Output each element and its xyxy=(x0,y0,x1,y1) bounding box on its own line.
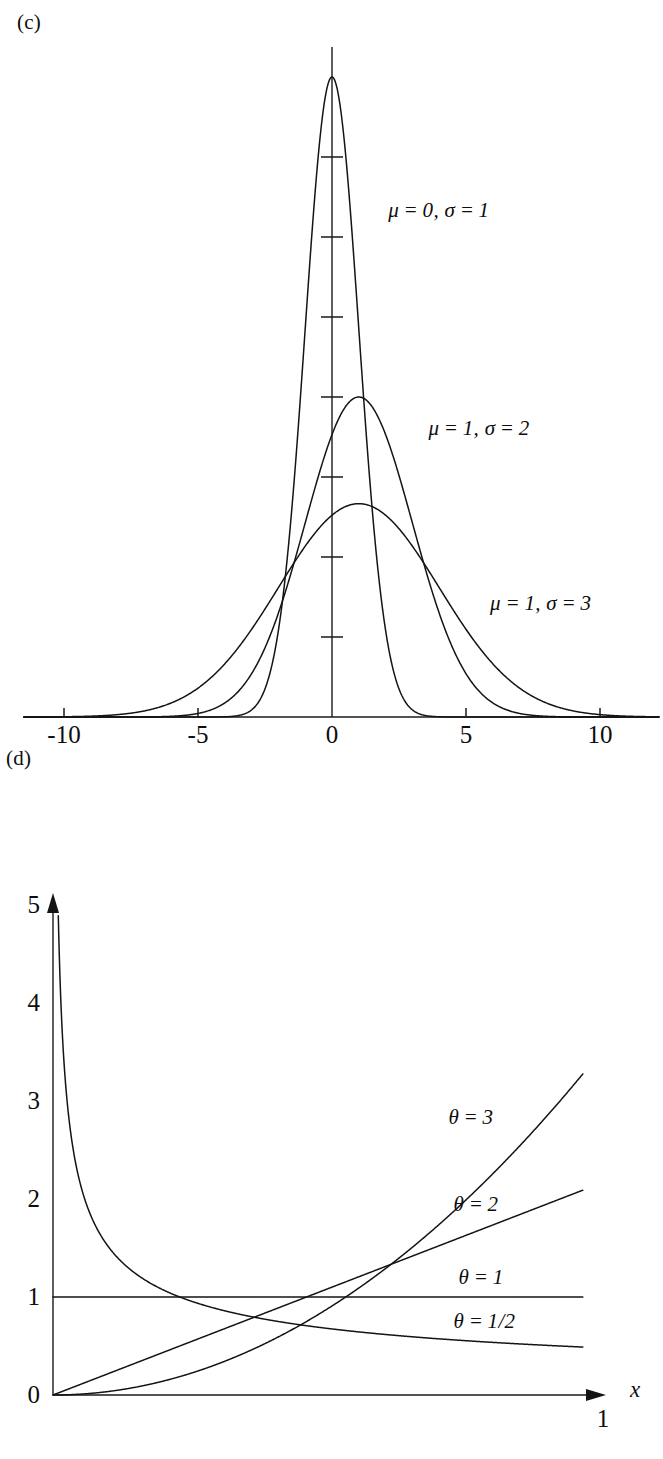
figure-root: (c) -10-50510 μ = 0, σ = 1μ = 1, σ = 2μ … xyxy=(0,0,663,1459)
panel-d-y-tick-label-5: 5 xyxy=(10,891,40,919)
panel-d-curve-3 xyxy=(58,916,583,1347)
panel-d-curve-1 xyxy=(53,1190,583,1395)
panel-c-annotation-1: μ = 1, σ = 2 xyxy=(428,416,529,441)
panel-d-y-tick-label-3: 3 xyxy=(10,1087,40,1115)
panel-d-curve-0 xyxy=(53,1074,583,1395)
panel-d-x-tick-label-0: 1 xyxy=(597,1405,610,1433)
panel-d-plot xyxy=(0,740,663,1459)
panel-d-annotation-0: θ = 3 xyxy=(448,1105,493,1130)
panel-d-y-tick-label-2: 2 xyxy=(10,1185,40,1213)
panel-d-annotation-2: θ = 1 xyxy=(459,1265,504,1290)
panel-d-y-axis-arrow xyxy=(47,893,59,913)
panel-d-x-axis-arrow xyxy=(586,1389,606,1401)
panel-d-y-tick-label-1: 1 xyxy=(10,1283,40,1311)
panel-c-annotation-2: μ = 1, σ = 3 xyxy=(490,591,591,616)
panel-c-annotation-0: μ = 0, σ = 1 xyxy=(388,198,489,223)
panel-c-plot xyxy=(0,0,663,740)
panel-d-annotation-1: θ = 2 xyxy=(454,1192,499,1217)
panel-d-y-tick-label-4: 4 xyxy=(10,989,40,1017)
panel-d-annotation-3: θ = 1/2 xyxy=(454,1309,516,1334)
panel-d-y-tick-label-0: 0 xyxy=(10,1381,40,1409)
panel-d-x-axis-label: x xyxy=(630,1377,640,1403)
panel-d-beta-densities: (d) 012345 1 θ = 3θ = 2θ = 1θ = 1/2 x xyxy=(0,740,663,1459)
panel-c-normal-densities: (c) -10-50510 μ = 0, σ = 1μ = 1, σ = 2μ … xyxy=(0,0,663,740)
